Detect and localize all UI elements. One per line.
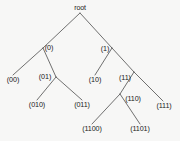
tree-node-n11: (11) xyxy=(119,74,131,82)
tree-edges-layer xyxy=(0,0,180,141)
tree-node-n110: (110) xyxy=(125,95,141,103)
tree-node-root: root xyxy=(74,4,86,12)
tree-edge-n110-to-n1100 xyxy=(92,94,120,124)
tree-node-n1101: (1101) xyxy=(130,125,150,133)
tree-edge-n0-to-n00 xyxy=(13,48,43,75)
tree-edge-n1-to-n11 xyxy=(112,48,134,72)
tree-node-n01: (01) xyxy=(39,73,51,81)
tree-node-n10: (10) xyxy=(89,76,101,84)
tree-node-n1100: (1100) xyxy=(82,125,102,133)
tree-node-n0: (0) xyxy=(45,44,53,52)
tree-node-n111: (111) xyxy=(156,102,171,110)
tree-node-n010: (010) xyxy=(29,101,45,109)
tree-edge-n01-to-n011 xyxy=(56,77,82,100)
tree-node-n011: (011) xyxy=(74,101,90,109)
tree-node-n1: (1) xyxy=(101,45,109,53)
tree-edge-root-to-n1 xyxy=(80,13,112,48)
binary-tree-diagram: root(0)(1)(00)(01)(10)(11)(010)(011)(110… xyxy=(0,0,180,141)
tree-node-n00: (00) xyxy=(7,76,19,84)
